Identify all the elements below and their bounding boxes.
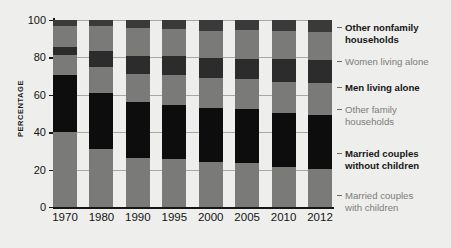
- legend-label: Other family: [345, 104, 451, 116]
- bar-segment[interactable]: [126, 56, 150, 74]
- x-axis-line: [53, 207, 334, 209]
- x-tick-label: 2010: [264, 211, 304, 223]
- bar-segment[interactable]: [199, 162, 223, 207]
- plot-area: 19701980199019952000200520102012: [53, 20, 332, 207]
- bar-column[interactable]: [272, 20, 296, 207]
- bar-segment[interactable]: [308, 83, 332, 115]
- bar-segment[interactable]: [89, 149, 113, 207]
- legend-leader-line: [337, 195, 342, 196]
- bar-segment[interactable]: [199, 78, 223, 108]
- bar-segment[interactable]: [53, 55, 77, 75]
- bar-segment[interactable]: [126, 28, 150, 56]
- bar-segment[interactable]: [308, 115, 332, 169]
- legend-label: Women living alone: [345, 56, 451, 68]
- legend-label: without children: [345, 160, 451, 172]
- bar-column[interactable]: [53, 20, 77, 207]
- bar-segment[interactable]: [126, 102, 150, 158]
- bar-segment[interactable]: [199, 108, 223, 162]
- bar-segment[interactable]: [308, 20, 332, 32]
- x-tick-label: 2000: [191, 211, 231, 223]
- bar-segment[interactable]: [272, 59, 296, 82]
- bar-segment[interactable]: [235, 59, 259, 80]
- y-tick-mark: [49, 207, 53, 208]
- bar-segment[interactable]: [53, 26, 77, 48]
- bar-segment[interactable]: [308, 32, 332, 60]
- bar-segment[interactable]: [89, 20, 113, 26]
- stacked-bar-chart: PERCENTAGE 020406080100 1970198019901995…: [0, 0, 451, 248]
- bar-segment[interactable]: [53, 75, 77, 132]
- bar-segment[interactable]: [162, 75, 186, 105]
- bar-column[interactable]: [235, 20, 259, 207]
- bar-segment[interactable]: [235, 163, 259, 207]
- bar-segment[interactable]: [199, 20, 223, 31]
- bar-segment[interactable]: [272, 20, 296, 31]
- chart-legend: Other nonfamilyhouseholdsWomen living al…: [337, 12, 451, 228]
- legend-entry[interactable]: Other nonfamilyhouseholds: [345, 22, 451, 45]
- legend-label: Married couples: [345, 190, 451, 202]
- bar-segment[interactable]: [162, 56, 186, 75]
- y-tick-label: 0: [20, 201, 46, 213]
- bar-segment[interactable]: [89, 51, 113, 67]
- legend-entry[interactable]: Married coupleswith children: [345, 190, 451, 213]
- bar-segment[interactable]: [272, 113, 296, 167]
- bar-column[interactable]: [308, 20, 332, 207]
- legend-entry[interactable]: Men living alone: [345, 82, 451, 94]
- legend-leader-line: [337, 109, 342, 110]
- y-tick-label: 100: [20, 14, 46, 26]
- legend-entry[interactable]: Married coupleswithout children: [345, 148, 451, 171]
- bar-segment[interactable]: [199, 58, 223, 78]
- legend-leader-line: [337, 153, 342, 154]
- bar-segment[interactable]: [53, 20, 77, 26]
- legend-entry[interactable]: Other familyhouseholds: [345, 104, 451, 127]
- bar-segment[interactable]: [162, 159, 186, 207]
- x-tick-label: 1980: [81, 211, 121, 223]
- bar-segment[interactable]: [89, 26, 113, 51]
- bar-segment[interactable]: [126, 20, 150, 28]
- legend-label: with children: [345, 202, 451, 214]
- y-axis-tick-labels: 020406080100: [12, 0, 46, 248]
- legend-leader-line: [337, 27, 342, 28]
- bar-segment[interactable]: [272, 82, 296, 113]
- bar-segment[interactable]: [126, 74, 150, 102]
- x-tick-label: 2005: [227, 211, 267, 223]
- bar-segment[interactable]: [89, 93, 113, 149]
- y-tick-label: 20: [20, 164, 46, 176]
- legend-label: households: [345, 116, 451, 128]
- legend-label: households: [345, 34, 451, 46]
- bar-column[interactable]: [199, 20, 223, 207]
- bar-segment[interactable]: [235, 30, 259, 58]
- bar-segment[interactable]: [53, 132, 77, 207]
- x-tick-label: 1970: [45, 211, 85, 223]
- bar-column[interactable]: [126, 20, 150, 207]
- bar-segment[interactable]: [235, 109, 259, 163]
- legend-entry[interactable]: Women living alone: [345, 56, 451, 68]
- bar-segment[interactable]: [89, 67, 113, 93]
- x-tick-label: 2012: [300, 211, 340, 223]
- legend-label: Men living alone: [345, 82, 451, 94]
- bar-segment[interactable]: [162, 29, 186, 56]
- bar-segment[interactable]: [308, 60, 332, 83]
- bar-segment[interactable]: [53, 47, 77, 55]
- legend-leader-line: [337, 61, 342, 62]
- legend-label: Married couples: [345, 148, 451, 160]
- y-tick-label: 80: [20, 51, 46, 63]
- legend-leader-line: [337, 87, 342, 88]
- bar-column[interactable]: [89, 20, 113, 207]
- bar-segment[interactable]: [272, 167, 296, 207]
- legend-label: Other nonfamily: [345, 22, 451, 34]
- bar-segment[interactable]: [308, 169, 332, 207]
- bar-segment[interactable]: [199, 31, 223, 59]
- bar-segment[interactable]: [272, 31, 296, 59]
- bar-segment[interactable]: [235, 79, 259, 109]
- bar-segment[interactable]: [162, 105, 186, 159]
- bar-column[interactable]: [162, 20, 186, 207]
- bar-group: [53, 20, 332, 207]
- y-tick-label: 60: [20, 89, 46, 101]
- bar-segment[interactable]: [162, 20, 186, 29]
- bar-segment[interactable]: [126, 158, 150, 207]
- bar-segment[interactable]: [235, 20, 259, 30]
- y-tick-label: 40: [20, 126, 46, 138]
- x-tick-label: 1995: [154, 211, 194, 223]
- x-tick-label: 1990: [118, 211, 158, 223]
